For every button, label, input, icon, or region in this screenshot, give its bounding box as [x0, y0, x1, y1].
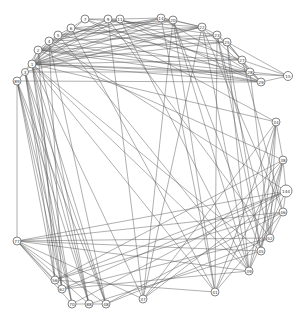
node-5[interactable]: 5: [54, 31, 62, 39]
node-label: 37: [140, 297, 146, 302]
node-89[interactable]: 89: [13, 77, 21, 85]
node-label: 89: [14, 79, 20, 84]
node-38[interactable]: 38: [279, 156, 287, 164]
node-label: 2: [37, 48, 40, 53]
node-label: 52: [267, 236, 273, 241]
edge-77-37: [17, 241, 143, 299]
edge-1-7: [32, 19, 85, 64]
edge-89-62: [17, 81, 62, 289]
node-label: 9: [107, 17, 110, 22]
node-label: 70: [69, 302, 75, 307]
node-20[interactable]: 20: [169, 16, 177, 24]
edge-37-34: [143, 122, 276, 299]
node-label: 3: [24, 70, 27, 75]
node-39[interactable]: 39: [245, 267, 253, 275]
node-6[interactable]: 6: [67, 24, 75, 32]
node-7[interactable]: 7: [81, 15, 89, 23]
node-label: 5: [57, 33, 60, 38]
node-label: 22: [199, 25, 205, 30]
node-label: 77: [14, 239, 20, 244]
node-label: 88: [86, 302, 92, 307]
edge-37-144: [143, 191, 286, 299]
node-14[interactable]: 14: [157, 14, 165, 22]
edge-5-22: [58, 27, 202, 35]
node-56[interactable]: 56: [51, 276, 59, 284]
node-29[interactable]: 29: [257, 78, 265, 86]
edge-9-52: [108, 19, 270, 238]
node-88[interactable]: 88: [85, 300, 93, 308]
node-9[interactable]: 9: [104, 15, 112, 23]
edge-2-28: [38, 50, 250, 72]
node-label: 28: [247, 70, 253, 75]
edge-34-1: [32, 64, 276, 122]
node-45[interactable]: 45: [257, 247, 265, 255]
node-4[interactable]: 4: [45, 37, 53, 45]
node-48[interactable]: 48: [102, 300, 110, 308]
node-label: 20: [170, 18, 176, 23]
edge-37-9: [108, 19, 143, 299]
node-28[interactable]: 28: [246, 68, 254, 76]
node-11[interactable]: 11: [116, 15, 124, 23]
edge-38-34: [276, 122, 283, 160]
node-label: 45: [258, 249, 264, 254]
node-3[interactable]: 3: [22, 69, 29, 76]
node-22[interactable]: 22: [198, 23, 206, 31]
node-25[interactable]: 25: [223, 38, 231, 46]
node-label: 46: [280, 210, 286, 215]
node-label: 1: [31, 62, 34, 67]
network-graph: 1234567911142022232527282915893438144465…: [0, 0, 303, 321]
node-label: 29: [258, 80, 264, 85]
graph-canvas: 1234567911142022232527282915893438144465…: [0, 0, 303, 321]
node-label: 11: [117, 17, 123, 22]
node-label: 7: [84, 17, 87, 22]
edge-39-5: [58, 35, 249, 271]
node-1[interactable]: 1: [28, 60, 36, 68]
node-34[interactable]: 34: [272, 118, 280, 126]
node-41[interactable]: 41: [211, 288, 219, 296]
node-46[interactable]: 46: [279, 208, 287, 216]
node-15[interactable]: 15: [284, 72, 293, 81]
edge-37-22: [143, 27, 202, 299]
node-label: 6: [70, 26, 73, 31]
node-label: 25: [224, 40, 230, 45]
node-label: 38: [280, 158, 286, 163]
node-label: 34: [273, 120, 279, 125]
edge-1-62: [32, 64, 62, 289]
node-label: 39: [246, 269, 252, 274]
node-label: 15: [285, 74, 291, 79]
node-label: 23: [214, 33, 220, 38]
node-70[interactable]: 70: [68, 300, 76, 308]
node-27[interactable]: 27: [238, 56, 246, 64]
node-37[interactable]: 37: [139, 295, 147, 303]
edge-1-45: [32, 64, 261, 251]
node-label: 62: [59, 287, 65, 292]
node-label: 144: [282, 189, 290, 194]
node-2[interactable]: 2: [34, 46, 42, 54]
node-144[interactable]: 144: [280, 185, 292, 197]
node-label: 27: [239, 58, 245, 63]
edge-77-56: [17, 241, 55, 280]
node-label: 56: [52, 278, 58, 283]
node-label: 4: [48, 39, 51, 44]
edge-77-70: [17, 241, 72, 304]
node-77[interactable]: 77: [13, 237, 21, 245]
edge-88-45: [89, 251, 261, 304]
graph-edges: [17, 18, 288, 304]
node-62[interactable]: 62: [58, 285, 66, 293]
node-label: 48: [103, 302, 109, 307]
edge-77-48: [17, 241, 106, 304]
edge-70-144: [72, 191, 286, 304]
node-label: 14: [158, 16, 164, 21]
node-label: 41: [212, 290, 218, 295]
edge-1-28: [32, 64, 250, 72]
node-52[interactable]: 52: [266, 234, 274, 242]
node-23[interactable]: 23: [213, 31, 221, 39]
